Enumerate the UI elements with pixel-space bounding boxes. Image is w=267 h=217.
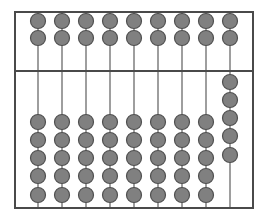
upper-bead[interactable] [199,14,214,29]
upper-bead[interactable] [55,14,70,29]
lower-bead[interactable] [127,133,142,148]
lower-bead[interactable] [31,188,46,203]
lower-bead[interactable] [31,133,46,148]
lower-bead[interactable] [175,115,190,130]
lower-bead[interactable] [79,115,94,130]
lower-bead[interactable] [223,111,238,126]
lower-bead[interactable] [103,133,118,148]
lower-bead[interactable] [175,169,190,184]
lower-bead[interactable] [127,169,142,184]
upper-bead[interactable] [55,31,70,46]
lower-bead[interactable] [79,151,94,166]
upper-bead[interactable] [31,14,46,29]
lower-bead[interactable] [103,188,118,203]
upper-bead[interactable] [151,14,166,29]
lower-bead[interactable] [151,133,166,148]
lower-bead[interactable] [151,188,166,203]
lower-bead[interactable] [223,75,238,90]
lower-bead[interactable] [31,151,46,166]
lower-bead[interactable] [103,115,118,130]
lower-bead[interactable] [199,133,214,148]
lower-bead[interactable] [127,188,142,203]
lower-bead[interactable] [175,151,190,166]
lower-bead[interactable] [79,169,94,184]
lower-bead[interactable] [223,93,238,108]
upper-bead[interactable] [103,31,118,46]
lower-bead[interactable] [151,169,166,184]
lower-bead[interactable] [55,133,70,148]
lower-bead[interactable] [223,148,238,163]
lower-bead[interactable] [55,169,70,184]
upper-bead[interactable] [127,14,142,29]
lower-bead[interactable] [199,151,214,166]
lower-bead[interactable] [103,151,118,166]
lower-bead[interactable] [199,115,214,130]
lower-bead[interactable] [199,188,214,203]
lower-bead[interactable] [55,115,70,130]
upper-bead[interactable] [151,31,166,46]
lower-bead[interactable] [103,169,118,184]
lower-bead[interactable] [31,169,46,184]
upper-bead[interactable] [79,14,94,29]
lower-bead[interactable] [31,115,46,130]
lower-bead[interactable] [151,151,166,166]
lower-bead[interactable] [175,188,190,203]
lower-bead[interactable] [175,133,190,148]
upper-bead[interactable] [175,31,190,46]
upper-bead[interactable] [175,14,190,29]
lower-bead[interactable] [127,151,142,166]
upper-bead[interactable] [103,14,118,29]
lower-bead[interactable] [79,133,94,148]
upper-bead[interactable] [79,31,94,46]
lower-bead[interactable] [151,115,166,130]
lower-bead[interactable] [199,169,214,184]
upper-bead[interactable] [199,31,214,46]
upper-bead[interactable] [223,14,238,29]
lower-bead[interactable] [55,188,70,203]
upper-bead[interactable] [127,31,142,46]
upper-bead[interactable] [31,31,46,46]
lower-bead[interactable] [223,129,238,144]
lower-bead[interactable] [127,115,142,130]
lower-bead[interactable] [55,151,70,166]
lower-bead[interactable] [79,188,94,203]
upper-bead[interactable] [223,31,238,46]
abacus-diagram [0,0,267,217]
